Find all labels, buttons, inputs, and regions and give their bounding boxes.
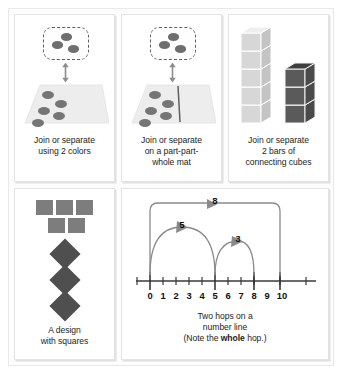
caption-note: (Note the whole hop.) (122, 333, 328, 344)
mat-dot (55, 100, 67, 108)
tick-label: 3 (182, 290, 196, 301)
caption-line: whole mat (122, 157, 221, 168)
tick-label: 0 (143, 290, 157, 301)
panel-caption: Join or separate 2 bars of connecting cu… (229, 135, 328, 169)
caption-line: connecting cubes (229, 157, 328, 168)
panel-design-with-squares: A design with squares (14, 188, 115, 360)
mat-dot (162, 100, 174, 108)
tick-label: 7 (234, 290, 248, 301)
figure-frame: Join or separate using 2 colors Join or … (8, 8, 334, 366)
tick-label: 8 (247, 290, 261, 301)
tick-label: 4 (195, 290, 209, 301)
square (75, 199, 94, 216)
caption-line: Join or separate (122, 135, 221, 146)
mat-dot (32, 119, 44, 127)
dot (52, 41, 63, 49)
caption-line: Join or separate (229, 135, 328, 146)
dot (61, 33, 72, 41)
cube (285, 63, 315, 87)
panel-caption: Two hops on a number line (Note the whol… (122, 311, 328, 345)
caption-line: A design (15, 325, 114, 336)
part-hop-5-arc (150, 227, 215, 275)
double-arrow-icon (167, 62, 178, 83)
dashed-dot-box (43, 27, 89, 60)
dot (175, 45, 186, 53)
panel-part-part-whole-mat: Join or separate on a part-part- whole m… (121, 14, 222, 182)
square (35, 199, 54, 216)
mat-dot (160, 112, 172, 120)
tick-label: 2 (169, 290, 183, 301)
caption-line: Join or separate (15, 135, 114, 146)
square (47, 217, 66, 234)
caption-line: 2 bars of (229, 146, 328, 157)
mat-dot (53, 112, 65, 120)
part-hop-3-arc (215, 241, 254, 275)
square (67, 217, 86, 234)
number-line-diagram (122, 189, 330, 297)
dark-cube-bar (281, 57, 321, 127)
caption-line: with squares (15, 336, 114, 347)
panel-caption: Join or separate using 2 colors (15, 135, 114, 157)
hop-label-part-2: 3 (230, 233, 246, 244)
mat-dot (38, 107, 50, 115)
mat-dot (139, 119, 151, 127)
square (55, 199, 74, 216)
mat-dot (42, 91, 54, 99)
caption-line: using 2 colors (15, 146, 114, 157)
tick-label: 10 (273, 290, 291, 301)
tick-label: 6 (221, 290, 235, 301)
dot (68, 45, 79, 53)
caption-line: number line (122, 322, 328, 333)
dashed-dot-box (150, 27, 196, 60)
double-arrow-icon (60, 62, 71, 83)
mat-dot (149, 91, 161, 99)
tick-label: 5 (208, 290, 222, 301)
dot (159, 41, 170, 49)
mat-dot (145, 107, 157, 115)
panel-caption: A design with squares (15, 325, 114, 347)
cube (241, 27, 271, 51)
caption-note-pre: (Note the (183, 333, 220, 343)
caption-line: Two hops on a (122, 311, 328, 322)
caption-note-post: hop.) (245, 333, 267, 343)
panel-number-line-hops: 8 5 3 0 1 2 3 4 5 6 7 8 9 10 Two hops on… (121, 188, 329, 360)
tick-label: 9 (260, 290, 274, 301)
panel-caption: Join or separate on a part-part- whole m… (122, 135, 221, 169)
caption-note-emphasis: whole (221, 333, 245, 343)
dot (168, 33, 179, 41)
hop-label-whole: 8 (207, 195, 223, 206)
caption-line: on a part-part- (122, 146, 221, 157)
panel-connecting-cubes: Join or separate 2 bars of connecting cu… (228, 14, 329, 182)
diamond (49, 290, 80, 321)
hop-label-part-1: 5 (174, 219, 190, 230)
tick-label: 1 (156, 290, 170, 301)
light-cube-bar (237, 21, 277, 127)
panel-two-colors: Join or separate using 2 colors (14, 14, 115, 182)
